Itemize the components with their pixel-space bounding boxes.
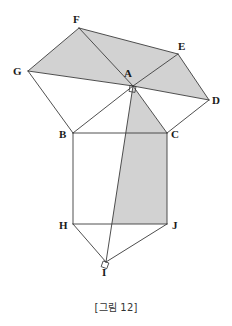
geometry-figure: A B C D E F G H I J [그림 12] [0, 0, 232, 326]
vertex-label-J: J [172, 220, 178, 231]
figure-caption: [그림 12] [0, 299, 232, 314]
region-triangle-H-I-J [73, 224, 167, 262]
vertex-label-D: D [212, 95, 220, 106]
vertex-label-G: G [13, 66, 22, 77]
region-layer [28, 28, 209, 262]
vertex-label-F: F [73, 14, 80, 25]
vertex-label-E: E [178, 41, 185, 52]
vertex-label-B: B [59, 129, 66, 140]
vertex-label-H: H [59, 220, 68, 231]
vertex-label-C: C [171, 129, 179, 140]
vertex-label-I: I [102, 267, 106, 278]
geometry-canvas [0, 0, 232, 326]
vertex-label-A: A [124, 68, 132, 79]
